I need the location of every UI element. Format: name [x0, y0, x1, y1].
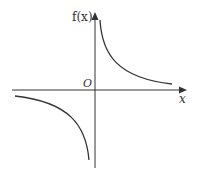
curve-branch-quadrant-1: [100, 20, 172, 84]
function-graph: f(x) O x: [0, 0, 198, 177]
origin-label: O: [83, 77, 92, 90]
x-axis-label: x: [179, 92, 186, 106]
curve-branch-quadrant-3: [15, 96, 89, 160]
y-axis-label: f(x): [72, 10, 93, 24]
x-axis: [12, 87, 187, 94]
